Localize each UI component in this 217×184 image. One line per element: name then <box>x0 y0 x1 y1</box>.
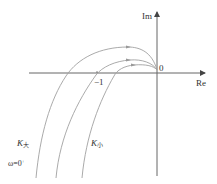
k-large-sub: 大 <box>23 142 29 148</box>
k-small-sub: 小 <box>97 142 103 148</box>
k-small-label: K小 <box>91 139 103 148</box>
real-axis-label: Re <box>196 79 206 88</box>
direction-arrow-icon <box>126 46 131 49</box>
minus-one-label: −1 <box>94 78 104 87</box>
nyquist-diagram <box>0 0 217 184</box>
omega-sup: + <box>22 159 25 164</box>
imag-axis-label: Im <box>142 12 152 21</box>
k-large-label: K大 <box>17 139 29 148</box>
direction-arrow-icon <box>126 59 131 62</box>
origin-label: 0 <box>159 64 164 73</box>
omega-base: ω=0 <box>8 159 22 168</box>
curve-critical <box>56 60 157 178</box>
direction-arrow-icon <box>131 64 136 67</box>
omega-label: ω=0+ <box>8 159 25 168</box>
